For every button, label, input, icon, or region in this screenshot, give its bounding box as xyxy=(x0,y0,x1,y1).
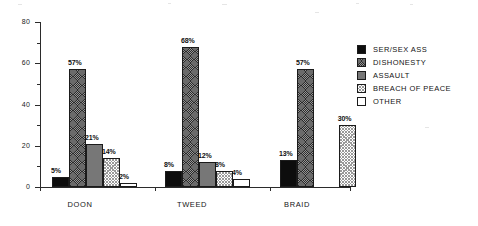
bar-value-label: 21% xyxy=(85,134,99,141)
bar-tweed-dishonesty xyxy=(182,47,199,187)
legend-label: ASSAULT xyxy=(373,71,410,80)
category-separator xyxy=(155,187,156,191)
bar-tweed-breach xyxy=(216,171,233,188)
bar-value-label: 57% xyxy=(68,59,82,66)
legend-swatch-other xyxy=(357,97,366,106)
bar-doon-assault xyxy=(86,144,103,187)
scan-speckle xyxy=(425,127,429,128)
bar-tweed-other xyxy=(233,179,250,187)
legend-swatch-assault xyxy=(357,71,366,80)
bar-doon-breach xyxy=(103,158,120,187)
bar-value-label: 8% xyxy=(164,161,174,168)
category-label-tweed: TWEED xyxy=(177,200,207,209)
y-tick-label: 40 xyxy=(4,101,30,108)
legend-label: DISHONESTY xyxy=(373,58,426,67)
legend-item-serious: SER/SEX ASS xyxy=(357,43,451,56)
plot-area: 5%57%21%14%2%8%68%12%8%4%13%57%30% xyxy=(40,22,350,187)
legend-label: SER/SEX ASS xyxy=(373,45,427,54)
y-tick-label: 80 xyxy=(4,18,30,25)
y-tick-label: 0 xyxy=(4,183,30,190)
bar-tweed-assault xyxy=(199,162,216,187)
bar-value-label: 68% xyxy=(181,37,195,44)
legend-item-dishonesty: DISHONESTY xyxy=(357,56,451,69)
bar-value-label: 30% xyxy=(338,115,352,122)
legend-swatch-serious xyxy=(357,45,366,54)
bar-braid-dishonesty xyxy=(297,69,314,187)
scan-speckle xyxy=(222,4,227,5)
bar-value-label: 4% xyxy=(232,169,242,176)
bar-doon-serious xyxy=(52,177,69,187)
category-separator xyxy=(270,187,271,191)
scan-speckle xyxy=(168,3,171,4)
scan-speckle xyxy=(356,3,359,4)
scan-speckle xyxy=(315,12,319,13)
legend-swatch-dishonesty xyxy=(357,58,366,67)
legend-item-breach: BREACH OF PEACE xyxy=(357,82,451,95)
bar-value-label: 2% xyxy=(119,173,129,180)
x-axis-line xyxy=(40,187,350,188)
category-label-doon: DOON xyxy=(68,200,93,209)
category-separator xyxy=(350,187,351,191)
y-tick-label: 20 xyxy=(4,142,30,149)
scan-speckle xyxy=(410,4,413,5)
bar-value-label: 5% xyxy=(51,167,61,174)
scan-speckle xyxy=(18,4,22,5)
bar-braid-serious xyxy=(280,160,297,187)
chart-legend: SER/SEX ASSDISHONESTYASSAULTBREACH OF PE… xyxy=(357,43,451,108)
legend-label: OTHER xyxy=(373,97,402,106)
bar-value-label: 14% xyxy=(102,148,116,155)
bar-value-label: 12% xyxy=(198,152,212,159)
bar-doon-dishonesty xyxy=(69,69,86,187)
bar-value-label: 13% xyxy=(279,150,293,157)
category-separator xyxy=(40,187,41,191)
bar-value-label: 57% xyxy=(296,59,310,66)
bar-chart: 020406080 5%57%21%14%2%8%68%12%8%4%13%57… xyxy=(0,0,478,226)
legend-item-other: OTHER xyxy=(357,95,451,108)
bar-braid-breach xyxy=(339,125,356,187)
y-tick-label: 60 xyxy=(4,59,30,66)
bar-tweed-serious xyxy=(165,171,182,188)
bar-doon-other xyxy=(120,183,137,187)
category-label-braid: BRAID xyxy=(284,200,310,209)
bar-value-label: 8% xyxy=(215,161,225,168)
legend-swatch-breach xyxy=(357,84,366,93)
legend-label: BREACH OF PEACE xyxy=(373,84,451,93)
legend-item-assault: ASSAULT xyxy=(357,69,451,82)
